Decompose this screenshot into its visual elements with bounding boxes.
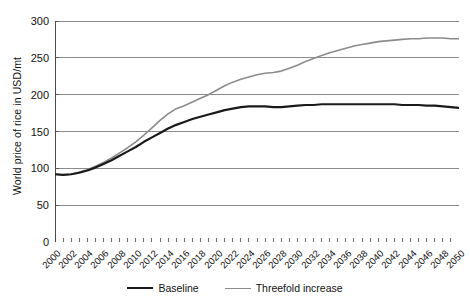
y-axis-tick-label: 100 (5, 163, 49, 173)
chart-legend: BaselineThreefold increase (0, 282, 470, 294)
y-axis-tick-label: 50 (5, 200, 49, 210)
chart-canvas (55, 21, 459, 242)
y-axis-tick-label: 0 (5, 237, 49, 247)
legend-label: Baseline (158, 282, 198, 294)
legend-item-baseline[interactable]: Baseline (127, 282, 198, 294)
threefold-line-swatch (225, 288, 251, 289)
y-axis-tick-label: 300 (5, 16, 49, 26)
legend-label: Threefold increase (256, 282, 343, 294)
y-axis-tick-label: 250 (5, 53, 49, 63)
baseline-line-swatch (127, 287, 153, 289)
chart-figure: World price of rice in USD/mt 3002502001… (0, 0, 470, 306)
y-axis-tick-label: 150 (5, 127, 49, 137)
plot-area (55, 21, 459, 242)
y-axis-tick-label: 200 (5, 90, 49, 100)
series-line-baseline (55, 104, 459, 175)
legend-item-threefold-increase[interactable]: Threefold increase (225, 282, 343, 294)
